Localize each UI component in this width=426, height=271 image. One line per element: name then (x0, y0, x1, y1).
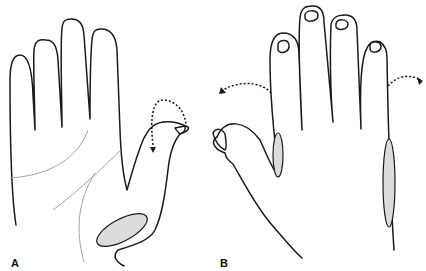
hand-a (10, 19, 188, 266)
panel-label-a: A (11, 257, 19, 269)
flexion-arrow (152, 100, 186, 145)
thumbnail-a (175, 126, 185, 134)
hand-b (213, 6, 423, 258)
abduction-arrow-left (223, 84, 271, 93)
nail-ring (336, 20, 348, 30)
hands-illustration (0, 0, 426, 271)
shaded-lesion-a (92, 207, 152, 253)
nail-index (278, 40, 289, 52)
nail-middle (305, 11, 318, 21)
panel-label-b: B (220, 257, 228, 269)
shaded-lesion-b-ulnar (383, 139, 395, 227)
shaded-lesion-b-index (273, 133, 283, 177)
abduction-arrow-right (388, 76, 420, 86)
nail-little (370, 42, 381, 52)
